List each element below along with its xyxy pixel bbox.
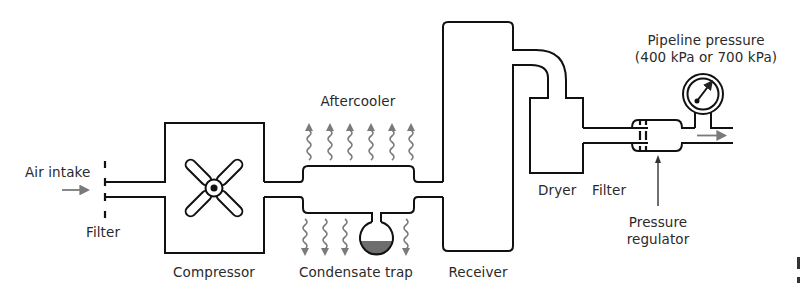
condensate-trap-label: Condensate trap [299, 264, 413, 280]
pipeline-pressure-label-line1: Pipeline pressure [647, 32, 764, 48]
cropped-text-fragment [797, 277, 800, 283]
condensate-trap-icon [358, 222, 396, 261]
pressure-regulator-label-line2: regulator [627, 231, 690, 247]
pressure-regulator-label-line1: Pressure [629, 214, 687, 230]
compressor-label: Compressor [173, 264, 255, 280]
cropped-text-fragment [797, 257, 800, 269]
regulator-pointer-arrow-icon [655, 155, 661, 206]
air-intake-label: Air intake [25, 164, 90, 180]
line-filter-label: Filter [592, 182, 626, 198]
intake-pipe [105, 182, 166, 197]
aftercooler-body [264, 166, 443, 222]
dryer-outlet-pipe [583, 128, 635, 143]
receiver-tank [443, 22, 583, 251]
compressor-fan-icon [184, 158, 245, 219]
pressure-gauge-icon [683, 74, 733, 128]
heat-dissipation-up-icon [305, 123, 415, 160]
pipeline-pressure-label-line2: (400 kPa or 700 kPa) [635, 49, 777, 65]
receiver-label: Receiver [448, 264, 507, 280]
dryer-label: Dryer [538, 182, 576, 198]
aftercooler-label: Aftercooler [321, 93, 396, 109]
line-filter-icon [640, 119, 646, 151]
intake-filter-label: Filter [86, 224, 120, 240]
